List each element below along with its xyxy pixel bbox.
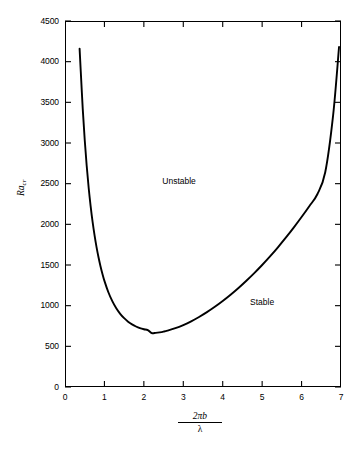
y-tick-label-3000: 3000	[17, 139, 59, 148]
region-label-unstable: Unstable	[162, 176, 196, 186]
y-tick-label-4000: 4000	[17, 57, 59, 66]
x-axis-title: 2πb λ	[178, 411, 222, 436]
x-tick-label-6: 6	[292, 393, 312, 402]
x-axis-title-denominator: λ	[178, 423, 222, 435]
x-tick-label-2: 2	[134, 393, 154, 402]
y-tick-label-1500: 1500	[17, 261, 59, 270]
x-tick-label-0: 0	[55, 393, 75, 402]
x-axis-title-numerator: 2πb	[178, 411, 222, 423]
y-tick-label-2000: 2000	[17, 220, 59, 229]
y-tick-label-3500: 3500	[17, 98, 59, 107]
x-tick-label-3: 3	[173, 393, 193, 402]
y-axis-title-subscript: cr	[20, 180, 28, 186]
x-tick-label-7: 7	[331, 393, 351, 402]
x-tick-label-1: 1	[94, 393, 114, 402]
y-tick-label-0: 0	[17, 383, 59, 392]
y-tick-label-500: 500	[17, 342, 59, 351]
plot-area-frame	[65, 21, 341, 387]
x-tick-label-5: 5	[252, 393, 272, 402]
x-tick-label-4: 4	[213, 393, 233, 402]
region-label-stable: Stable	[250, 297, 274, 307]
y-axis-title-base: Ra	[16, 185, 26, 196]
stability-diagram-figure: 050010001500200025003000350040004500 012…	[0, 0, 359, 450]
y-tick-label-4500: 4500	[17, 17, 59, 26]
y-axis-title: Racr	[16, 180, 28, 196]
y-tick-label-1000: 1000	[17, 301, 59, 310]
